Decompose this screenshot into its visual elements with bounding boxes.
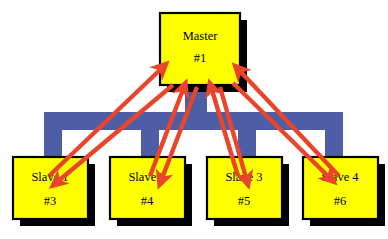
slave-4-box bbox=[303, 157, 378, 219]
node-slave-4[interactable]: Slave 4 #6 bbox=[303, 157, 385, 226]
slave-4-id-label: #6 bbox=[334, 194, 347, 208]
bus-rail bbox=[44, 112, 343, 130]
node-master[interactable]: Master #1 bbox=[160, 13, 247, 92]
slave-2-label: Slave 2 bbox=[128, 170, 165, 184]
slave-1-id-label: #3 bbox=[44, 194, 57, 208]
slave-2-id-label: #4 bbox=[141, 194, 154, 208]
master-box bbox=[160, 13, 240, 85]
master-slave-bus-diagram: Master #1 Slave 1 #3 Slave 2 #4 Slave 3 … bbox=[0, 0, 388, 239]
diagram-canvas: Master #1 Slave 1 #3 Slave 2 #4 Slave 3 … bbox=[0, 0, 388, 239]
slave-3-id-label: #5 bbox=[238, 194, 251, 208]
slave-2-box bbox=[110, 157, 185, 219]
master-id-label: #1 bbox=[194, 51, 207, 65]
master-label: Master bbox=[183, 29, 219, 43]
node-slave-3[interactable]: Slave 3 #5 bbox=[207, 157, 289, 226]
node-slave-1[interactable]: Slave 1 #3 bbox=[13, 157, 95, 226]
